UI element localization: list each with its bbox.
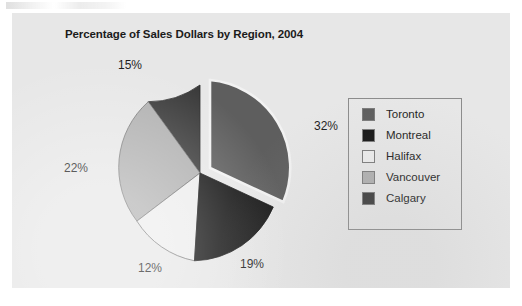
legend-swatch-vancouver (362, 171, 375, 184)
slice-label-montreal: 19% (240, 257, 264, 271)
figure-panel: Percentage of Sales Dollars by Region, 2… (12, 13, 510, 288)
slice-label-vancouver: 22% (64, 161, 88, 175)
legend-label-montreal: Montreal (386, 129, 431, 141)
legend-swatch-montreal (362, 129, 375, 142)
legend-item-calgary[interactable]: Calgary (362, 191, 440, 205)
slice-label-toronto: 32% (314, 119, 338, 133)
legend-swatch-calgary (362, 192, 375, 205)
legend-label-toronto: Toronto (386, 108, 424, 120)
legend: Toronto Montreal Halifax Vancouver Calga… (348, 98, 462, 230)
legend-label-vancouver: Vancouver (386, 171, 440, 183)
legend-item-montreal[interactable]: Montreal (362, 128, 440, 142)
slice-label-calgary: 15% (118, 58, 142, 72)
legend-swatch-toronto (362, 108, 375, 121)
legend-swatch-halifax (362, 150, 375, 163)
scan-artifact (6, 2, 126, 9)
legend-item-toronto[interactable]: Toronto (362, 107, 440, 121)
legend-item-vancouver[interactable]: Vancouver (362, 170, 440, 184)
legend-item-halifax[interactable]: Halifax (362, 149, 440, 163)
legend-label-halifax: Halifax (386, 150, 421, 162)
legend-items: Toronto Montreal Halifax Vancouver Calga… (362, 107, 440, 205)
legend-label-calgary: Calgary (386, 192, 426, 204)
slice-label-halifax: 12% (138, 261, 162, 275)
